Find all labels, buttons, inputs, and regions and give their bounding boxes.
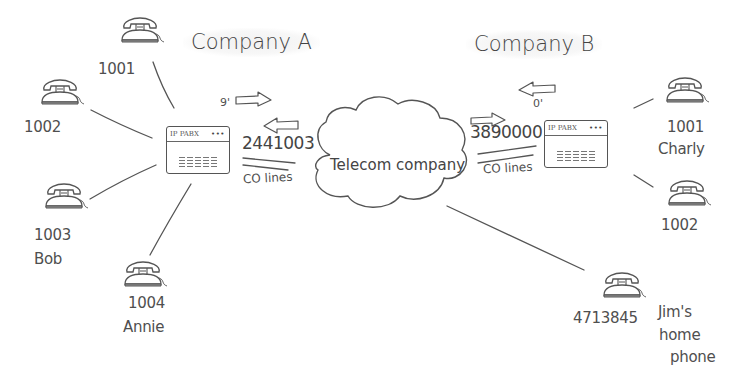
network-diagram: Company A Company B IP PABX ••• IP PABX … [0,0,734,386]
company-a-pabx: IP PABX ••• [166,126,230,174]
pabx-keypad-icon [179,157,219,167]
company-b-pabx: IP PABX ••• [544,120,608,168]
pabx-status-leds: ••• [589,125,603,132]
company-a-trunk-number: 2441003 [242,135,314,152]
ext-a-1003-name: Bob [34,252,62,267]
home-phone-number: 4713845 [573,311,638,326]
line-a-1001 [153,62,174,108]
phone-icon-home [604,273,646,297]
company-a-outbound-prefix: 9' [220,97,230,108]
ext-a-1004-number: 1004 [128,296,165,311]
ext-b-1001-name: Charly [658,142,705,157]
ext-b-1001-number: 1001 [667,120,704,135]
phone-icon-b-1002 [669,181,711,205]
line-b-1002 [634,175,653,187]
line-a-1003 [90,165,156,199]
phone-icon-a-1003 [46,184,88,208]
phone-icon-b-1001 [667,78,709,102]
ext-a-1002-number: 1002 [24,120,61,135]
ext-a-1003-number: 1003 [34,228,71,243]
ext-b-1002-number: 1002 [661,218,698,233]
co-line-b-1 [478,146,536,154]
ext-a-1004-name: Annie [123,320,164,335]
pabx-status-leds: ••• [211,131,225,138]
company-b-title: Company B [466,30,602,59]
telecom-company-label: Telecom company [330,156,465,174]
home-phone-label-line3: phone [670,350,715,365]
line-b-1001 [634,99,653,108]
phone-icon-a-1001 [122,18,164,42]
ext-a-1001-number: 1001 [98,62,135,77]
line-a-1002 [91,110,152,138]
company-b-co-lines-label: CO lines [483,161,533,176]
arrow-a-inbound [264,118,298,133]
pabx-keypad-icon [557,151,597,161]
phone-icon-a-1002 [42,80,84,104]
home-phone-label-line1: Jim's [658,305,692,320]
company-a-co-lines-label: CO lines [243,171,293,186]
diagram-connectors [0,0,734,386]
arrow-b-outbound [519,82,555,96]
home-phone-label-line2: home [659,328,700,343]
company-b-trunk-number: 3890000 [470,124,542,141]
line-a-1004 [150,184,191,255]
co-line-a-1 [243,158,295,163]
phone-icon-a-1004 [125,262,167,286]
line-home [447,206,584,270]
arrow-a-outbound [236,92,271,106]
company-b-outbound-prefix: 0' [533,98,543,109]
company-a-title: Company A [183,28,320,57]
telecom-cloud-shape [316,97,467,207]
